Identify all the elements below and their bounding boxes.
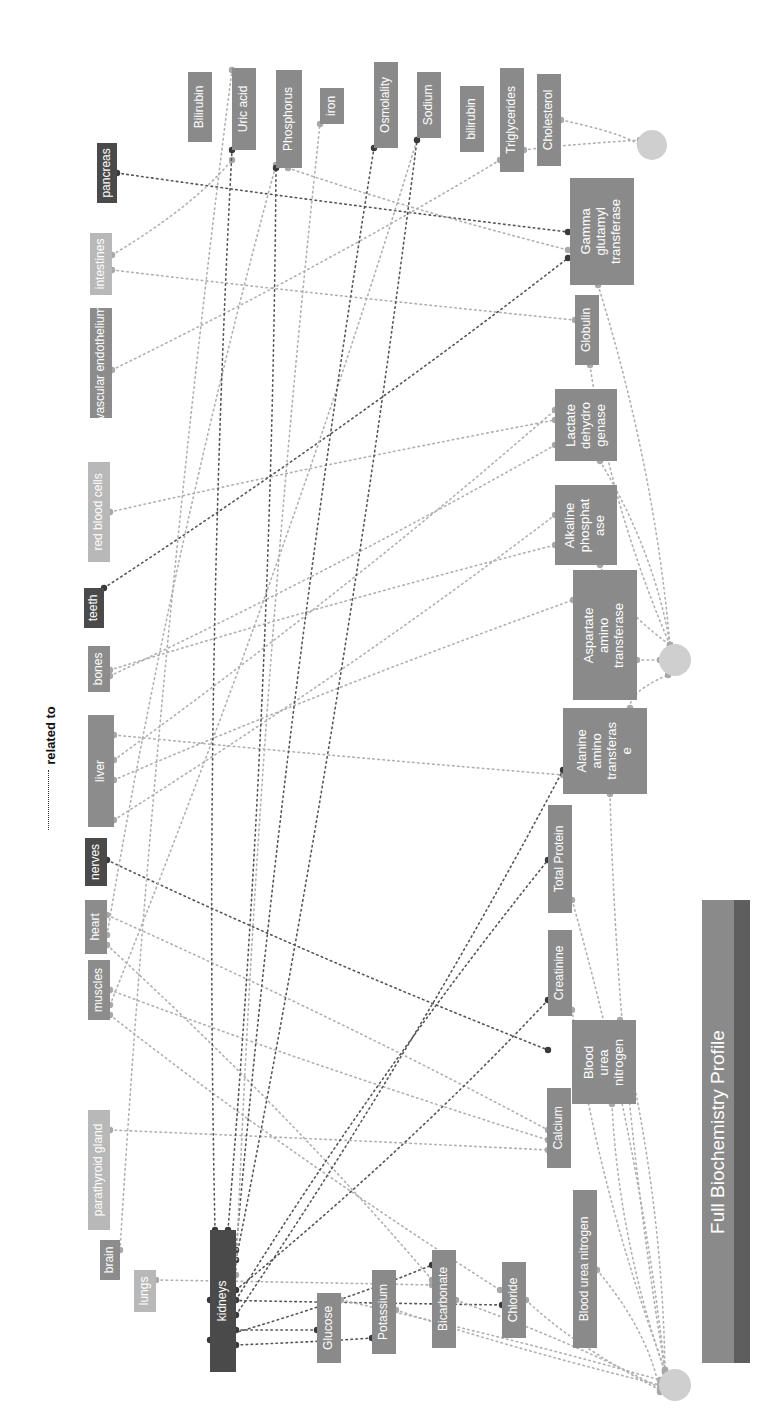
test-node-calcium[interactable]: Calcium [547,1088,571,1168]
relation-edge [107,860,548,1050]
test-node-label: Osmolality [379,77,393,133]
relation-edge [110,420,555,512]
organ-node-liver[interactable]: liver [88,715,114,827]
test-node-label: Total Protein [553,826,567,893]
hub-electrolytes-circle-icon[interactable] [659,1369,691,1401]
organ-node-red-blood-cells[interactable]: red blood cells [88,462,110,562]
organ-node-pancreas[interactable]: pancreas [97,143,117,203]
organ-node-label: parathyroid gland [92,1124,106,1217]
organ-node-label: brain [103,1247,117,1274]
relation-edge [236,148,374,1250]
relation-edge [288,168,568,250]
relation-edge [236,770,563,1315]
test-node-cholesterol[interactable]: Cholesterol [537,74,561,166]
edge-port-icon [545,1047,551,1053]
organ-node-label: pancreas [100,148,114,197]
title-bar: Full Biochemistry Profile [702,900,750,1363]
legend-label-box: related to [38,700,62,770]
test-node-label: Blood urea nitrogen [582,1039,627,1086]
organ-node-bones[interactable]: bones [88,646,110,692]
test-node-label: Cholesterol [542,90,556,151]
organ-node-lungs[interactable]: lungs [134,1270,156,1312]
test-node-osmolality[interactable]: Osmolality [374,62,398,148]
legend-label: related to [43,706,58,765]
test-node-bilirubin-lower[interactable]: bilirubin [460,86,484,152]
test-node-label: Triglycerides [505,86,519,154]
relation-edge [228,168,276,1230]
test-node-label: Sodium [422,85,436,126]
page-title: Full Biochemistry Profile [707,1030,729,1234]
relation-edge [110,990,548,1140]
test-node-alanine-aminotransferase[interactable]: Alanine amino transferas e [563,708,647,794]
test-node-blood-urea-nitrogen-box[interactable]: Blood urea nitrogen [572,1020,636,1104]
relation-edge [112,160,500,370]
hub-lipids-circle-icon[interactable] [637,130,667,160]
title-text-box: Full Biochemistry Profile [702,900,734,1363]
relation-edge [110,445,555,676]
organ-node-label: lungs [138,1277,152,1306]
test-node-label: Creatinine [553,946,567,1001]
test-node-label: Potassium [377,1284,391,1340]
test-node-total-protein[interactable]: Total Protein [548,805,572,913]
organ-node-brain[interactable]: brain [100,1240,120,1280]
test-node-potassium[interactable]: Potassium [372,1270,396,1354]
relation-edge [104,258,568,588]
hub-liver-enzymes-circle-icon[interactable] [659,644,691,676]
test-node-label: Bilirubin [193,86,207,129]
relation-edge [114,515,555,820]
test-node-triglycerides[interactable]: Triglycerides [500,68,524,172]
organ-node-parathyroid-gland[interactable]: parathyroid gland [88,1110,110,1230]
test-node-alkaline-phosphatase[interactable]: Alkaline phosphat ase [555,485,617,565]
test-node-label: Phosphorus [282,87,296,151]
organ-node-label: nerves [89,844,103,880]
test-node-creatinine[interactable]: Creatinine [548,930,572,1016]
organ-node-kidneys[interactable]: kidneys [210,1230,236,1372]
test-node-bicarbonate[interactable]: Bicarbonate [432,1250,456,1348]
test-node-label: Bicarbonate [437,1267,451,1331]
organ-node-label: muscles [92,968,106,1012]
relation-edge [120,70,232,1250]
relation-edge [107,165,276,935]
test-node-label: Aspartate amino transferase [583,602,628,667]
relation-edge [117,173,568,232]
organ-node-label: intestines [94,239,108,290]
organ-node-label: teeth [87,595,101,622]
organ-node-heart[interactable]: heart [85,900,107,954]
organ-node-muscles[interactable]: muscles [88,960,110,1020]
test-node-label: Chloride [507,1278,521,1323]
test-node-label: Globulin [580,308,594,352]
organ-node-label: heart [89,913,103,940]
relation-edge [112,160,232,255]
title-bar-shadow [734,900,750,1363]
test-node-label: Lactate dehydro genase [564,402,609,449]
organ-node-nerves[interactable]: nerves [85,838,107,886]
test-node-label: Uric acid [237,86,251,133]
organ-node-vascular-endothelium[interactable]: vascular endothelium [90,308,112,418]
test-node-glucose[interactable]: Glucose [317,1293,341,1363]
relation-edge [110,140,417,1005]
test-node-label: Alanine amino transferas e [575,722,635,780]
relation-edge [236,140,417,1260]
test-node-phosphorus[interactable]: Phosphorus [276,70,302,168]
test-node-chloride[interactable]: Chloride [502,1262,526,1338]
test-node-lactate-dehydrogenase[interactable]: Lactate dehydro genase [555,389,617,461]
test-node-iron[interactable]: iron [320,88,344,124]
organ-node-teeth[interactable]: teeth [84,588,104,628]
test-node-blood-urea-nitrogen[interactable]: Blood urea nitrogen [573,1190,597,1348]
test-node-label: iron [325,96,339,116]
organ-node-label: kidneys [216,1281,230,1322]
legend-dotted-line-icon [48,770,50,830]
test-node-label: Glucose [322,1306,336,1350]
test-node-globulin[interactable]: Globulin [575,295,599,365]
test-node-aspartate-aminotransferase[interactable]: Aspartate amino transferase [573,570,637,700]
relation-edge [236,1338,372,1345]
test-node-bilirubin-upper[interactable]: Bilirubin [188,72,212,142]
relation-edge [110,1015,500,1290]
test-node-uric-acid[interactable]: Uric acid [232,68,256,150]
organ-node-intestines[interactable]: intestines [90,233,112,295]
relation-edge [114,600,573,780]
test-node-gamma-glutamyl-transferase[interactable]: Gamma glutamyl transferase [570,178,634,285]
relation-edge [110,1130,548,1150]
test-node-sodium[interactable]: Sodium [417,72,441,138]
edge-layer [0,0,778,1413]
